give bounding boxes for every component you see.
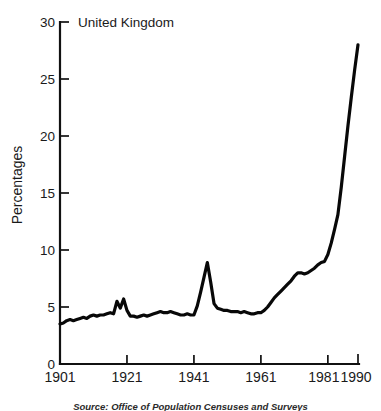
y-tick-label-group: 051015202530 <box>40 15 55 372</box>
data-series-united-kingdom <box>60 45 358 324</box>
x-tick-label: 1990 <box>340 369 371 385</box>
x-tick-label-group: 190119211941196119811990 <box>44 369 371 385</box>
y-tick-label: 10 <box>40 243 55 258</box>
chart-container: 051015202530 190119211941196119811990 Pe… <box>0 0 381 411</box>
chart-title: United Kingdom <box>78 15 174 30</box>
y-axis-title: Percentages <box>9 146 25 225</box>
x-tick-label: 1941 <box>178 369 209 385</box>
y-tick-label: 15 <box>40 186 55 201</box>
y-tick-label: 25 <box>40 72 55 87</box>
y-tick-group <box>60 22 69 364</box>
source-note: Source: Office of Population Censuses an… <box>0 399 381 411</box>
y-tick-label: 5 <box>47 300 55 315</box>
x-tick-label: 1921 <box>111 369 142 385</box>
x-tick-label: 1961 <box>245 369 276 385</box>
y-tick-label: 20 <box>40 129 55 144</box>
y-tick-label: 30 <box>40 15 55 30</box>
x-tick-label: 1981 <box>308 369 339 385</box>
x-tick-group <box>60 355 328 364</box>
x-tick-label: 1901 <box>44 369 75 385</box>
line-chart-svg: 051015202530 190119211941196119811990 Pe… <box>0 0 381 411</box>
